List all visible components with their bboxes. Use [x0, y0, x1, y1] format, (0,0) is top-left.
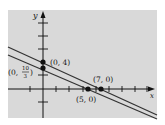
point-5-0	[85, 86, 90, 91]
label-0-4: (0, 4)	[50, 58, 70, 67]
label-0-10-3-suffix: )	[30, 68, 33, 77]
x-axis-label: x	[150, 92, 154, 100]
label-0-10-3-denominator: 3	[24, 73, 28, 79]
point-0-4	[40, 59, 45, 64]
graph: y x (0, 4) (0, 10 3 ) (5, 0) (7, 0)	[0, 0, 165, 125]
point-0-10-3	[40, 65, 45, 70]
label-5-0: (5, 0)	[76, 95, 96, 104]
label-7-0: (7, 0)	[93, 75, 113, 84]
label-0-10-3-prefix: (0,	[8, 68, 18, 77]
y-axis-label: y	[32, 11, 38, 20]
point-7-0	[98, 86, 103, 91]
label-0-10-3-numerator: 10	[22, 65, 29, 71]
